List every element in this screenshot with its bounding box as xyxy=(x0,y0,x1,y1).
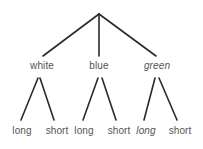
node-label-green-short: short xyxy=(169,125,192,137)
node-label-blue-short: short xyxy=(108,125,131,137)
tree-edge-level2-3 xyxy=(102,78,116,120)
node-label-blue: blue xyxy=(89,60,108,72)
tree-edge-level2-2 xyxy=(83,78,98,120)
node-label-white: white xyxy=(30,60,54,72)
node-label-white-short: short xyxy=(46,125,69,137)
tree-edge-level1-0 xyxy=(43,14,99,56)
tree-diagram: white blue green long short long short l… xyxy=(0,0,203,149)
root-to-colour-edges xyxy=(43,14,156,56)
node-label-blue-long: long xyxy=(74,125,93,137)
node-label-white-long: long xyxy=(12,125,31,137)
tree-edge-level2-5 xyxy=(159,78,177,120)
node-label-green-long: long xyxy=(136,125,155,137)
tree-edge-level1-2 xyxy=(99,14,156,56)
tree-edge-level2-1 xyxy=(40,78,54,120)
tree-edge-level2-4 xyxy=(144,78,155,120)
root-node-point xyxy=(98,13,100,15)
node-label-green: green xyxy=(144,60,170,72)
colour-to-length-edges xyxy=(21,78,177,120)
tree-edge-level2-0 xyxy=(21,78,38,120)
